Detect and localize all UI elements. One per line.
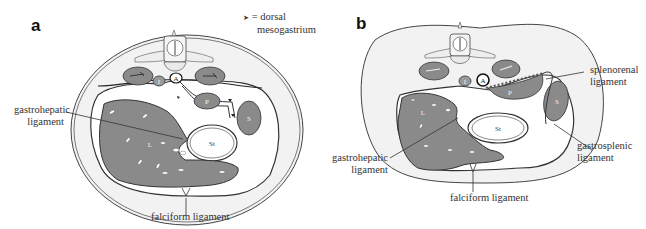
liver-label: L <box>148 141 152 149</box>
liver-label: L <box>421 109 425 117</box>
arrowhead-icon: ➤ <box>243 14 249 22</box>
left-kidney <box>419 62 449 80</box>
label-falciform-ligament-b: falciform ligament <box>450 192 528 204</box>
stomach-label: St <box>209 140 215 148</box>
label-gastrosplenic-ligament: gastrosplenic ligament <box>577 140 632 164</box>
label-falciform-ligament-a: falciform ligament <box>151 211 229 223</box>
stomach-label: St <box>495 125 501 133</box>
label-gastrohepatic-ligament-b: gastrohepatic ligament <box>322 152 388 176</box>
panel-letter-a: a <box>31 17 40 34</box>
panel-b: I A P S St L b <box>320 0 646 229</box>
spleen-label: S <box>247 115 251 123</box>
left-kidney <box>123 67 153 85</box>
pancreas-label: P <box>205 98 209 106</box>
right-kidney <box>492 60 520 78</box>
aorta-label: A <box>480 77 485 85</box>
legend-dorsal-mesogastrium: ➤ = dorsal mesogastrium <box>243 11 316 36</box>
label-gastrohepatic-ligament-a: gastrohepatic ligament <box>14 104 64 128</box>
aorta-label: A <box>173 75 178 83</box>
panel-letter-b: b <box>356 15 366 32</box>
pancreas-label: P <box>508 89 512 97</box>
panel-a: I A P S St L <box>0 0 320 229</box>
label-splenorenal-ligament: splenorenal ligament <box>590 64 638 88</box>
spleen-label: S <box>555 98 559 106</box>
